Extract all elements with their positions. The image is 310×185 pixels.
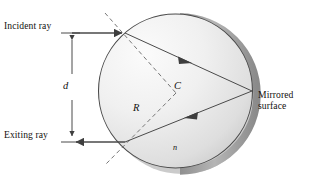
label-incident-ray: Incident ray <box>4 21 51 32</box>
label-exiting-ray: Exiting ray <box>4 130 48 141</box>
label-mirrored-surface: Mirrored surface <box>258 90 293 111</box>
label-index-n: n <box>173 143 177 152</box>
label-center-c: C <box>174 80 181 92</box>
optics-diagram-figure: Incident ray Exiting ray Mirrored surfac… <box>0 0 310 185</box>
label-distance-d: d <box>63 80 68 92</box>
label-mirrored-surface-line2: surface <box>258 101 293 112</box>
label-radius-r: R <box>133 102 139 114</box>
